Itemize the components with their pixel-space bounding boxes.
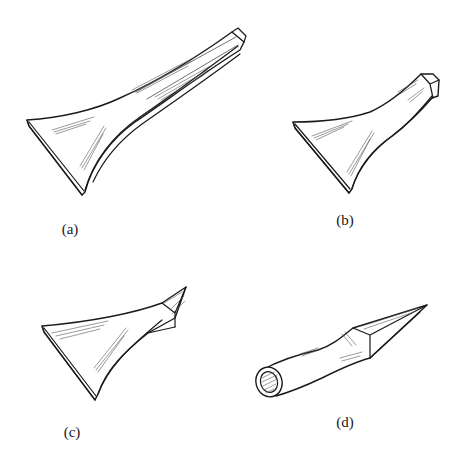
- tool-a-drawing: [27, 28, 246, 195]
- tool-b-drawing: [293, 74, 439, 193]
- tool-d-drawing: [253, 305, 427, 400]
- panel-label-c: (c): [64, 424, 81, 441]
- panel-label-a: (a): [62, 221, 79, 238]
- tool-c-drawing: [42, 287, 186, 400]
- panel-label-b: (b): [336, 212, 354, 229]
- panel-label-d: (d): [336, 414, 354, 431]
